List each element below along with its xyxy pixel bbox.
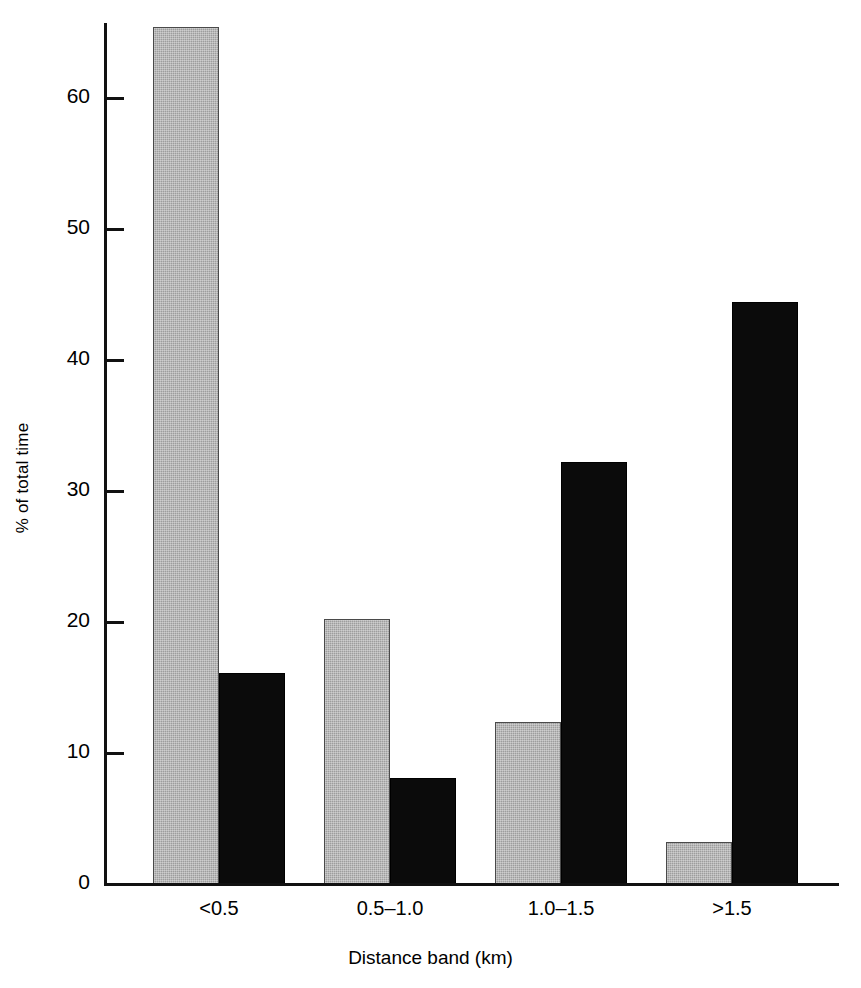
bar-light-grey-series-1 — [324, 619, 390, 884]
x-axis-line — [104, 883, 839, 886]
bar-light-grey-series-0 — [153, 27, 219, 884]
x-axis-tick-label: 1.0–1.5 — [481, 897, 641, 920]
bar-light-grey-series-3 — [666, 842, 732, 884]
plot-area — [0, 0, 861, 884]
bar-black-series-3 — [732, 302, 798, 884]
bar-black-series-1 — [390, 778, 456, 884]
bar-light-grey-series-2 — [495, 722, 561, 884]
x-axis-tick-label: >1.5 — [652, 897, 812, 920]
x-axis-tick-label: 0.5–1.0 — [310, 897, 470, 920]
bar-chart: % of total time 0102030405060 <0.50.5–1.… — [0, 0, 861, 988]
x-axis-title: Distance band (km) — [0, 947, 861, 969]
x-axis-tick-label: <0.5 — [139, 897, 299, 920]
bar-black-series-0 — [219, 673, 285, 884]
bar-black-series-2 — [561, 462, 627, 884]
